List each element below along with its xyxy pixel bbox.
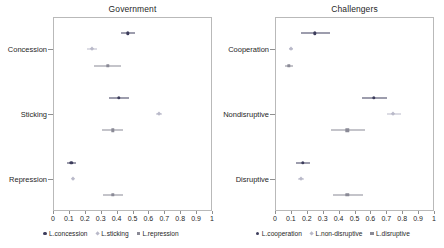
x-axis-tick-label: 0.6 xyxy=(366,215,376,222)
x-axis-tick xyxy=(164,211,165,214)
legend-swatch-icon xyxy=(370,232,373,235)
legend-swatch-icon xyxy=(95,231,100,236)
x-axis-tick xyxy=(212,211,213,214)
legend-entry[interactable]: L.repression xyxy=(137,230,179,237)
x-axis-tick-label: 1 xyxy=(210,215,214,222)
x-axis-tick-label: 0.4 xyxy=(112,215,122,222)
y-axis-category-label: Cooperation xyxy=(222,45,269,54)
x-axis-tick-label: 0.8 xyxy=(175,215,185,222)
x-axis-tick-label: 0.9 xyxy=(191,215,201,222)
x-axis-tick-label: 0 xyxy=(273,215,277,222)
x-axis-tick xyxy=(370,211,371,214)
plot-area xyxy=(275,17,434,211)
x-axis-tick xyxy=(275,211,276,214)
x-axis-tick xyxy=(355,211,356,214)
legend: L.concessionL.stickingL.repression xyxy=(0,230,222,237)
x-axis-tick xyxy=(402,211,403,214)
x-axis-tick xyxy=(323,211,324,214)
y-axis-category-label: Sticking xyxy=(0,110,47,119)
legend-entry[interactable]: L.disruptive xyxy=(370,230,409,237)
dot-whisker-chart-figure: Government 00.10.20.30.40.50.60.70.80.91… xyxy=(0,0,444,248)
legend-entry[interactable]: L.non-disruptive xyxy=(310,230,363,237)
y-axis-category-label: Concession xyxy=(0,45,47,54)
panel-challengers: Challengers 00.10.20.30.40.50.60.70.80.9… xyxy=(222,0,444,248)
x-axis-tick xyxy=(85,211,86,214)
x-axis-tick xyxy=(101,211,102,214)
x-axis-tick xyxy=(180,211,181,214)
x-axis-tick-label: 0.5 xyxy=(128,215,138,222)
y-axis-category-label: Nondisruptive xyxy=(222,110,269,119)
x-axis-tick-label: 0.3 xyxy=(318,215,328,222)
legend-entry[interactable]: L.cooperation xyxy=(256,230,302,237)
x-axis-tick xyxy=(418,211,419,214)
x-axis-tick-label: 0.3 xyxy=(96,215,106,222)
x-axis-tick xyxy=(339,211,340,214)
y-axis-tick xyxy=(270,179,275,180)
legend-swatch-icon xyxy=(137,232,140,235)
panel-title: Challengers xyxy=(275,4,434,14)
x-axis-tick xyxy=(117,211,118,214)
legend-label: L.disruptive xyxy=(376,230,410,237)
x-axis-tick xyxy=(148,211,149,214)
x-axis-tick xyxy=(386,211,387,214)
x-axis-tick xyxy=(196,211,197,214)
legend-swatch-icon xyxy=(256,232,259,235)
y-axis-tick xyxy=(48,114,53,115)
legend: L.cooperationL.non-disruptiveL.disruptiv… xyxy=(222,230,444,237)
x-axis-tick-label: 0 xyxy=(51,215,55,222)
y-axis-tick xyxy=(48,49,53,50)
x-axis-tick-label: 0.7 xyxy=(381,215,391,222)
x-axis-tick xyxy=(133,211,134,214)
panel-title: Government xyxy=(53,4,212,14)
legend-entry[interactable]: L.sticking xyxy=(96,230,129,237)
legend-label: L.repression xyxy=(142,230,178,237)
x-axis-tick xyxy=(53,211,54,214)
x-axis-tick-label: 0.9 xyxy=(413,215,423,222)
legend-swatch-icon xyxy=(309,231,314,236)
x-axis-tick xyxy=(307,211,308,214)
x-axis-tick-label: 0.2 xyxy=(302,215,312,222)
panel-government: Government 00.10.20.30.40.50.60.70.80.91… xyxy=(0,0,222,248)
x-axis-tick-label: 0.5 xyxy=(350,215,360,222)
plot-area xyxy=(53,17,212,211)
x-axis-tick-label: 0.4 xyxy=(334,215,344,222)
legend-label: L.concession xyxy=(49,230,88,237)
legend-entry[interactable]: L.concession xyxy=(43,230,87,237)
x-axis-tick-label: 0.6 xyxy=(144,215,154,222)
x-axis-tick-label: 0.8 xyxy=(397,215,407,222)
x-axis-tick-label: 0.7 xyxy=(159,215,169,222)
legend-label: L.cooperation xyxy=(262,230,302,237)
legend-swatch-icon xyxy=(43,232,46,235)
legend-label: L.non-disruptive xyxy=(316,230,363,237)
legend-label: L.sticking xyxy=(101,230,129,237)
y-axis-tick xyxy=(270,49,275,50)
y-axis-tick xyxy=(270,114,275,115)
y-axis-category-label: Repression xyxy=(0,174,47,183)
y-axis-category-label: Disruptive xyxy=(222,174,269,183)
y-axis-tick xyxy=(48,179,53,180)
x-axis-tick xyxy=(69,211,70,214)
x-axis-tick xyxy=(291,211,292,214)
x-axis-tick xyxy=(434,211,435,214)
x-axis-tick-label: 1 xyxy=(432,215,436,222)
x-axis-tick-label: 0.1 xyxy=(64,215,74,222)
x-axis-tick-label: 0.2 xyxy=(80,215,90,222)
x-axis-tick-label: 0.1 xyxy=(286,215,296,222)
